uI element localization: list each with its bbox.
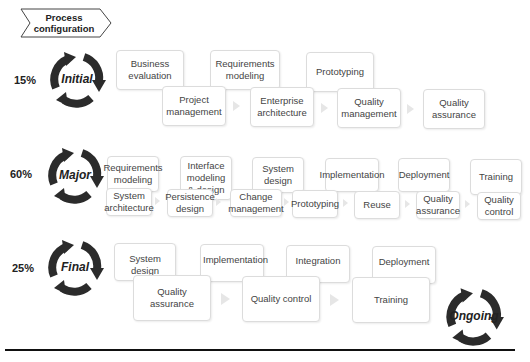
box-system-architecture: System architecture (106, 188, 152, 216)
ongoing-cycle: Ongoing (442, 284, 506, 348)
connector-arrow (407, 104, 414, 114)
box-enterprise-architecture: Enterprise architecture (250, 87, 314, 127)
box-requirements-modeling: Requirements modeling (107, 156, 159, 192)
box-reuse: Reuse (354, 191, 400, 219)
connector-arrow (233, 101, 240, 111)
box-deployment: Deployment (398, 158, 450, 192)
box-business-evaluation: Business evaluation (116, 50, 184, 90)
connector-arrow (221, 293, 230, 305)
box-persistence-design: Persistence design (167, 189, 213, 217)
box-quality-assurance: Quality assurance (133, 275, 211, 321)
box-project-management: Project management (162, 86, 226, 126)
connector-arrow (330, 294, 339, 306)
connector-arrow (465, 200, 470, 208)
box-requirements-modeling: Requirements modeling (210, 50, 280, 90)
box-implementation: Implementation (325, 158, 379, 192)
major-cycle-label: Major (44, 144, 106, 206)
connector-arrow (321, 103, 328, 113)
box-system-design: System design (252, 157, 304, 193)
box-quality-control: Quality control (242, 276, 320, 322)
box-prototyping: Prototyping (306, 52, 374, 92)
box-quality-management: Quality management (337, 88, 401, 128)
ongoing-cycle-label: Ongoing (442, 284, 506, 348)
connector-arrow (343, 199, 348, 207)
initial-cycle: Initial (46, 48, 108, 110)
final-cycle: Final (44, 236, 106, 298)
box-training: Training (352, 277, 430, 323)
major-cycle: Major (44, 144, 106, 206)
box-quality-control: Quality control (477, 192, 521, 220)
major-percent: 60% (10, 168, 32, 180)
box-quality-assurance: Quality assurance (423, 89, 485, 129)
bottom-rule (5, 349, 515, 351)
initial-percent: 15% (14, 74, 36, 86)
connector-arrow (405, 200, 410, 208)
box-quality-assurance: Quality assurance (416, 191, 460, 219)
connector-arrow (155, 197, 160, 205)
final-cycle-label: Final (44, 236, 106, 298)
box-training: Training (470, 159, 522, 195)
initial-cycle-label: Initial (46, 48, 108, 110)
connector-arrow (216, 198, 221, 206)
process-configuration-label: Process configuration (22, 8, 106, 38)
connector-arrow (284, 198, 289, 206)
box-change-management: Change management (230, 189, 282, 217)
final-percent: 25% (12, 262, 34, 274)
box-prototyping: Prototyping (292, 190, 338, 218)
